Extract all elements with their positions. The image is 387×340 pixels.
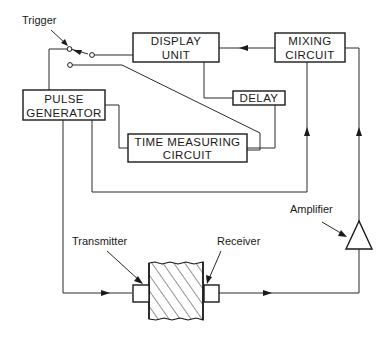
switch-arm-arrowhead-icon	[73, 50, 82, 55]
transmitter-label: Transmitter	[72, 235, 128, 247]
receiver-to-amplifier-wire	[219, 249, 359, 293]
switch-to-pulse-generator-wire	[49, 49, 69, 90]
time-measuring-circuit-block: TIME MEASURING CIRCUIT	[128, 134, 247, 162]
receiver-pointer-arrowhead-icon	[206, 275, 212, 284]
display-unit-block: DISPLAY UNIT	[133, 33, 219, 62]
specimen-hatched-block	[149, 262, 203, 320]
pulse-to-time-measuring-wire	[105, 105, 128, 148]
display-unit-line2: UNIT	[162, 49, 190, 61]
switch-contact-time	[68, 63, 73, 68]
amplifier-pointer-arrowhead-icon	[338, 230, 347, 237]
transmitter-probe: Transmitter	[72, 235, 149, 302]
delay-to-time-measuring-wire	[247, 105, 275, 148]
transmitter-box	[133, 285, 149, 302]
amplifier-triangle-icon	[346, 221, 372, 249]
receiver-probe: Receiver	[204, 235, 261, 302]
transmitter-pointer-line	[107, 251, 141, 282]
pulse-to-transmitter-arrowhead-icon	[101, 290, 110, 296]
time-measuring-line2: CIRCUIT	[163, 149, 212, 161]
trigger-annotation: Trigger	[22, 14, 68, 46]
switch-pivot-contact	[67, 47, 72, 52]
delay-block: DELAY	[233, 91, 285, 105]
time-measuring-line1: TIME MEASURING	[135, 136, 241, 148]
pulse-generator-block: PULSE GENERATOR	[23, 90, 105, 120]
delay-label: DELAY	[240, 92, 279, 104]
test-specimen	[149, 262, 203, 320]
amplifier: Amplifier	[290, 203, 372, 249]
receiver-to-amplifier-arrowhead-icon	[263, 290, 272, 296]
amplifier-label: Amplifier	[290, 203, 333, 215]
receiver-box	[204, 285, 219, 302]
pulse-to-mixing-arrowhead-icon	[304, 127, 310, 136]
pulse-to-transmitter-wire	[63, 120, 132, 293]
switch-contact-display	[90, 53, 95, 58]
trigger-label: Trigger	[22, 14, 57, 26]
pulse-generator-line1: PULSE	[44, 93, 84, 105]
mixing-circuit-line1: MIXING	[288, 35, 331, 47]
pulse-generator-line2: GENERATOR	[26, 107, 101, 119]
amplifier-to-mixing-arrowhead-icon	[356, 127, 362, 136]
display-to-delay-wire	[204, 62, 233, 98]
mixing-circuit-line2: CIRCUIT	[285, 49, 334, 61]
display-unit-line1: DISPLAY	[151, 35, 202, 47]
mixing-to-display-arrowhead-icon	[239, 45, 248, 51]
mixing-circuit-block: MIXING CIRCUIT	[275, 33, 345, 62]
block-diagram: Trigger DISPLAY UNIT MIXING CIRCUIT DE	[0, 0, 387, 340]
receiver-label: Receiver	[217, 235, 261, 247]
